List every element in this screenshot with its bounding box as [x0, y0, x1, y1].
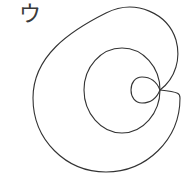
figure-background — [0, 0, 192, 182]
figure-container: ウ — [0, 0, 192, 182]
spiral-figure — [0, 0, 192, 182]
